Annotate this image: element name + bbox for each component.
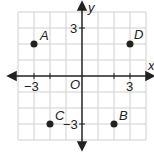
origin-label: O [70, 77, 80, 92]
svg-text:A: A [39, 28, 49, 43]
tick-label-y-neg: −3 [63, 117, 78, 132]
svg-text:D: D [134, 27, 143, 42]
x-axis-label: x [147, 58, 154, 73]
tick-label-y-pos: 3 [70, 21, 77, 36]
y-axis-label: y [87, 0, 96, 15]
tick-label-x-pos: 3 [126, 79, 133, 94]
coordinate-plane: y x O −3 3 3 −3 A B C D [0, 0, 154, 152]
tick-label-x-neg: −3 [24, 79, 39, 94]
point-A: A [31, 28, 49, 48]
point-B: B [111, 108, 129, 128]
svg-text:C: C [55, 108, 65, 123]
svg-text:B: B [119, 108, 128, 123]
